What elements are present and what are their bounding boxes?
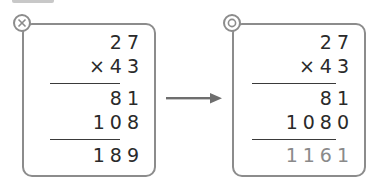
divider-line	[50, 139, 120, 140]
multiplier: ×43	[299, 55, 354, 77]
partial-product-1: 81	[110, 87, 144, 109]
partial-product-2: 108	[93, 111, 144, 133]
incorrect-calculation-card: 27 ×43 81 108 189	[22, 23, 156, 177]
partial-product-1: 81	[320, 87, 354, 109]
right-arrow-icon	[166, 92, 222, 104]
result: 1161	[286, 144, 354, 166]
double-circle-mark-icon	[223, 14, 241, 32]
partial-product-2: 1080	[286, 111, 354, 133]
top-tab-bar	[12, 0, 54, 3]
divider-line	[50, 83, 120, 84]
divider-line	[252, 83, 336, 84]
correct-calculation-card: 27 ×43 81 1080 1161	[232, 23, 366, 177]
result: 189	[93, 144, 144, 166]
cross-mark-icon	[13, 14, 31, 32]
multiplicand: 27	[320, 31, 354, 53]
multiplicand: 27	[110, 31, 144, 53]
divider-line	[252, 139, 336, 140]
multiplier: ×43	[89, 55, 144, 77]
